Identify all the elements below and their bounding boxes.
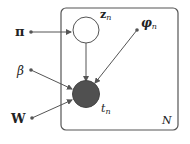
plate-label-n: N xyxy=(161,114,172,127)
latent-node-z xyxy=(73,17,99,43)
pi-label: π xyxy=(15,24,25,39)
graphical-model-diagram: π β W φn zn tn N xyxy=(0,0,190,144)
phi-label: φn xyxy=(141,16,157,31)
beta-dot xyxy=(29,68,33,72)
edge-beta-to-t xyxy=(31,70,72,89)
pi-dot xyxy=(29,30,33,34)
observed-node-t xyxy=(73,81,100,108)
t-label: tn xyxy=(101,102,111,116)
z-label: zn xyxy=(100,8,111,22)
phi-dot xyxy=(135,28,139,32)
w-dot xyxy=(30,116,34,120)
edge-phi-to-t xyxy=(95,30,137,83)
beta-label: β xyxy=(16,64,24,78)
w-label: W xyxy=(10,111,26,126)
edge-w-to-t xyxy=(32,100,72,118)
